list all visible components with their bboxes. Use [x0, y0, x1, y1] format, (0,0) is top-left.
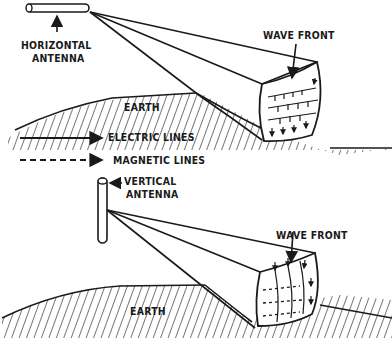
bottom-panel	[2, 178, 392, 338]
electric-lines-label: ELECTRIC LINES	[108, 132, 195, 144]
top-panel	[8, 4, 392, 155]
earth-top	[8, 93, 392, 155]
vertical-antenna-label-line2: ANTENNA	[126, 189, 179, 201]
wave-front-top	[259, 62, 320, 141]
wave-front-bottom	[256, 253, 317, 326]
magnetic-lines-label: MAGNETIC LINES	[113, 155, 205, 167]
wave-front-label-bottom: WAVE FRONT	[276, 230, 348, 242]
earth-bottom	[2, 285, 392, 338]
earth-label-bottom: EARTH	[130, 306, 166, 318]
horizontal-antenna-label-line2: ANTENNA	[32, 53, 85, 65]
earth-label-top: EARTH	[124, 102, 160, 114]
vertical-antenna-label-line1: VERTICAL	[124, 176, 176, 188]
horizontal-antenna-label-line1: HORIZONTAL	[21, 40, 91, 52]
wave-front-label-top: WAVE FRONT	[263, 30, 335, 42]
horizontal-antenna-icon	[26, 4, 89, 32]
